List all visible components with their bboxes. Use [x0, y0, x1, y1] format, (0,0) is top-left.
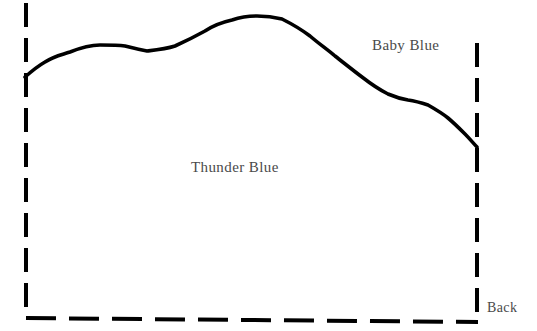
- unit-label-baby-blue: Baby Blue: [372, 37, 439, 54]
- bottom-boundary-dashed-line: [26, 318, 478, 322]
- edge-label-back: Back: [487, 300, 517, 316]
- diagram-canvas: Baby Blue Thunder Blue Back: [0, 0, 537, 331]
- unit-label-thunder-blue: Thunder Blue: [191, 159, 279, 176]
- geologic-contact-curve: [25, 16, 477, 147]
